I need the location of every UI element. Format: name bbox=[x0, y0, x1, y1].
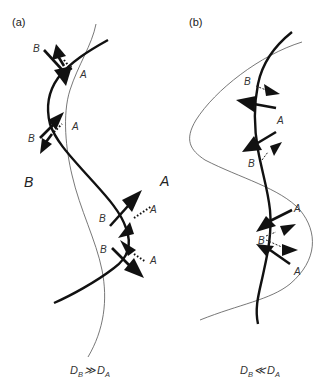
arrow-head-icon bbox=[264, 84, 280, 96]
arrow-head-icon bbox=[282, 244, 298, 256]
panel-b-label: (b) bbox=[189, 16, 202, 28]
panel-a-label-A-lower1: A bbox=[149, 204, 157, 215]
panel-a-caption: DB≫DA bbox=[70, 364, 110, 379]
diffusion-interface-figure: (a) B A B A B A bbox=[0, 0, 332, 388]
panel-b-mid-flux bbox=[242, 132, 282, 160]
panel-a-label-B-upper: B bbox=[33, 43, 40, 54]
arrow-head-icon bbox=[270, 142, 282, 156]
panel-b-thin-boundary bbox=[190, 42, 313, 320]
panel-a-label-B-mid: B bbox=[28, 133, 35, 144]
panel-a-thick-front bbox=[48, 40, 129, 303]
panel-b-label-B-lower: B bbox=[258, 235, 265, 246]
arrow-head-icon bbox=[236, 96, 256, 112]
arrow-head-icon bbox=[54, 66, 72, 86]
panel-a-region-A: A bbox=[159, 173, 169, 189]
panel-a-label-B-lower2: B bbox=[100, 244, 107, 255]
panel-a-lower-flux-1 bbox=[110, 190, 152, 238]
arrow-head-icon bbox=[124, 258, 144, 278]
panel-a: (a) B A B A B A bbox=[12, 16, 169, 379]
panel-a-label-A-upper: A bbox=[79, 69, 87, 80]
panel-a-label: (a) bbox=[12, 16, 25, 28]
arrow-head-icon bbox=[280, 224, 296, 236]
panel-b-region-A: A bbox=[276, 115, 284, 126]
figure-canvas: (a) B A B A B A bbox=[0, 0, 332, 388]
panel-b-label-B-mid: B bbox=[248, 158, 255, 169]
arrow-head-icon bbox=[242, 136, 262, 152]
panel-a-lower-flux-2 bbox=[112, 240, 146, 278]
panel-a-label-A-mid: A bbox=[71, 121, 79, 132]
panel-a-mid-flux bbox=[40, 112, 64, 154]
arrow-head-icon bbox=[118, 222, 134, 238]
panel-a-label-A-lower2: A bbox=[149, 255, 157, 266]
panel-b-label-A-lower-lower: A bbox=[293, 266, 301, 277]
panel-a-label-B-lower1: B bbox=[99, 213, 106, 224]
panel-b-label-A-lower-upper: A bbox=[293, 203, 301, 214]
panel-b-label-B-upper: B bbox=[244, 76, 251, 87]
panel-b-thick-front bbox=[255, 32, 292, 324]
panel-b-caption: DB≪DA bbox=[240, 364, 280, 379]
panel-a-region-B: B bbox=[24, 174, 33, 190]
panel-b: (b) B A B bbox=[189, 16, 312, 379]
